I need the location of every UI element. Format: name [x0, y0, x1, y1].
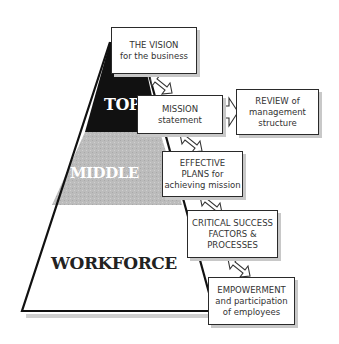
- plans-box: EFFECTIVE PLANS for achieving mission: [162, 151, 243, 197]
- tier-label-middle: MIDDLE: [70, 164, 139, 182]
- plans-line-2: PLANS for: [181, 169, 223, 180]
- csf-line-2: FACTORS &: [208, 229, 256, 240]
- csf-line-3: PROCESSES: [207, 240, 258, 251]
- vision-subtitle: for the business: [120, 51, 188, 62]
- csf-line-1: CRITICAL SUCCESS: [192, 218, 273, 229]
- empowerment-line-3: of employees: [223, 307, 280, 318]
- empowerment-box: EMPOWERMENT and participation of employe…: [208, 277, 295, 325]
- review-line-1: REVIEW of: [255, 96, 299, 107]
- mission-subtitle: statement: [158, 115, 202, 126]
- csf-box: CRITICAL SUCCESS FACTORS & PROCESSES: [187, 210, 278, 258]
- management-pyramid-diagram: TOP MIDDLE WORKFORCE THE VISION for the …: [0, 0, 339, 344]
- review-line-2: management: [249, 107, 306, 118]
- arrow-csf-empowerment: [228, 258, 250, 277]
- mission-title: MISSION: [162, 104, 198, 115]
- tier-label-top: TOP: [104, 95, 140, 114]
- review-box: REVIEW of management structure: [236, 89, 319, 135]
- plans-line-1: EFFECTIVE: [180, 158, 225, 169]
- review-line-3: structure: [258, 118, 297, 129]
- vision-box: THE VISION for the business: [111, 27, 197, 74]
- arrow-mission-plans: [180, 133, 202, 152]
- empowerment-line-1: EMPOWERMENT: [217, 285, 285, 296]
- vision-title: THE VISION: [130, 40, 179, 51]
- tier-label-workforce: WORKFORCE: [51, 253, 177, 273]
- empowerment-line-2: and participation: [215, 296, 287, 307]
- plans-line-3: achieving mission: [164, 180, 240, 191]
- mission-box: MISSION statement: [137, 95, 223, 134]
